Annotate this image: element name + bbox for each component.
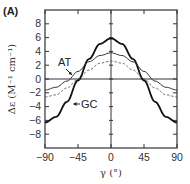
- x-tick-label: −45: [69, 151, 87, 163]
- y-tick-label: −2: [29, 86, 41, 98]
- y-tick-label: −8: [29, 128, 41, 140]
- y-axis-title: Δε (M⁻¹ cm⁻¹): [6, 44, 17, 115]
- y-tick-label: 0: [35, 73, 41, 85]
- x-tick-label: 90: [171, 151, 183, 163]
- x-tick-label: −90: [36, 151, 54, 163]
- y-tick-label: −6: [29, 114, 41, 126]
- y-tick-label: −4: [29, 100, 41, 112]
- x-axis-title: γ (°): [100, 167, 122, 178]
- annotation-at-label: AT: [58, 56, 72, 68]
- y-tick-label: 2: [35, 59, 41, 71]
- x-tick-label: 45: [138, 151, 150, 163]
- x-tick-label: 0: [108, 151, 114, 163]
- y-tick-label: 6: [35, 31, 41, 43]
- annotation-gc-label: GC: [81, 98, 98, 110]
- annotation-gc-arrowhead: [73, 102, 77, 106]
- y-tick-label: 4: [35, 45, 41, 57]
- cd-spectrum-chart: 86420−2−4−6−8−90−4504590γ (°)Δε (M⁻¹ cm⁻…: [0, 0, 190, 184]
- y-tick-label: 8: [35, 17, 41, 29]
